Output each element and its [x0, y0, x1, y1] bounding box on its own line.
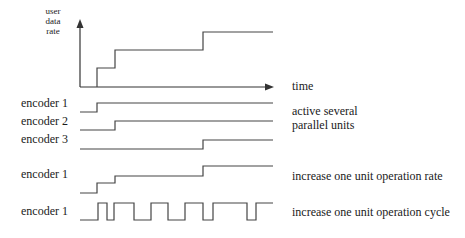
encoder-3-parallel-signal	[80, 140, 273, 149]
user-data-rate-curve	[97, 32, 273, 87]
annotation-cycle: increase one unit operation cycle	[292, 206, 450, 219]
row-label-encoder-2: encoder 2	[21, 115, 68, 128]
x-axis-label: time	[292, 80, 313, 93]
row-label-encoder-1-rate: encoder 1	[21, 168, 68, 181]
row-label-encoder-3: encoder 3	[21, 133, 68, 146]
x-axis-arrow-icon	[265, 84, 274, 91]
rate-axes	[77, 19, 275, 91]
row-label-encoder-1: encoder 1	[21, 97, 68, 110]
y-axis-label-line: user	[38, 6, 68, 16]
encoder-2-parallel-signal	[80, 121, 273, 130]
timing-diagram	[0, 0, 465, 238]
y-axis-label: user data rate	[38, 6, 68, 36]
encoder-1-rate-signal	[80, 166, 273, 193]
encoder-1-parallel-signal	[80, 103, 273, 112]
y-axis-label-line: data	[38, 16, 68, 26]
annotation-parallel-line2: parallel units	[292, 119, 354, 132]
y-axis-label-line: rate	[38, 26, 68, 36]
annotation-parallel-line1: active several	[292, 105, 358, 118]
annotation-rate: increase one unit operation rate	[292, 170, 443, 183]
y-axis-arrow-icon	[77, 19, 84, 28]
encoder-1-cycle-signal	[80, 203, 273, 220]
row-label-encoder-1-cycle: encoder 1	[21, 205, 68, 218]
